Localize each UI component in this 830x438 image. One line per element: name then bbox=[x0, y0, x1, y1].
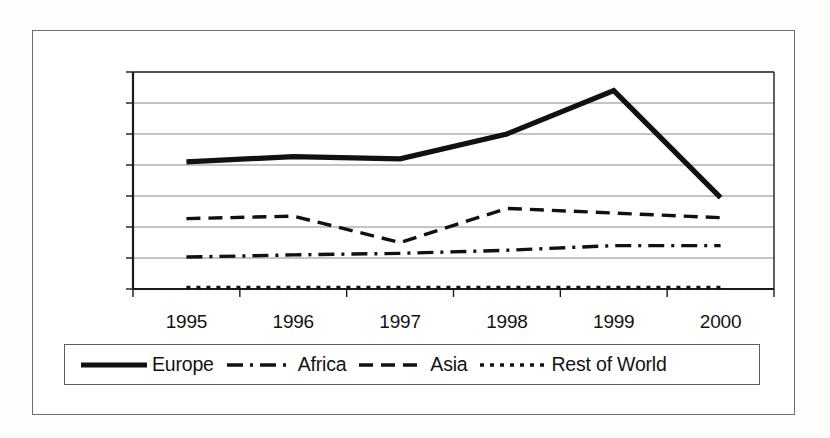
x-axis-tick-label: 1998 bbox=[467, 312, 547, 331]
x-axis-tick-label: 1999 bbox=[574, 312, 654, 331]
legend-item-label: Africa bbox=[298, 353, 347, 376]
x-axis-tick-label: 1997 bbox=[360, 312, 440, 331]
x-axis-tick-label: 1995 bbox=[146, 312, 226, 331]
legend-item: Africa bbox=[223, 345, 356, 384]
x-axis-ticks bbox=[133, 289, 774, 297]
x-axis-tick-label: 1996 bbox=[253, 312, 333, 331]
legend-item: Rest of World bbox=[476, 345, 675, 384]
legend-item-label: Rest of World bbox=[551, 353, 666, 376]
legend-item-label: Asia bbox=[430, 353, 467, 376]
dotted-line-icon bbox=[476, 355, 550, 375]
chart-figure: 010000200003000040000500006000070000 199… bbox=[32, 30, 795, 415]
dash-dot-line-icon bbox=[223, 355, 297, 375]
chart-legend: EuropeAfricaAsiaRest of World bbox=[64, 344, 760, 385]
solid-thick-line-icon bbox=[77, 355, 151, 375]
legend-item: Europe bbox=[77, 345, 223, 384]
legend-item-label: Europe bbox=[152, 353, 214, 376]
x-axis-tick-label: 2000 bbox=[681, 312, 761, 331]
legend-item: Asia bbox=[355, 345, 476, 384]
dashed-line-icon bbox=[355, 355, 429, 375]
